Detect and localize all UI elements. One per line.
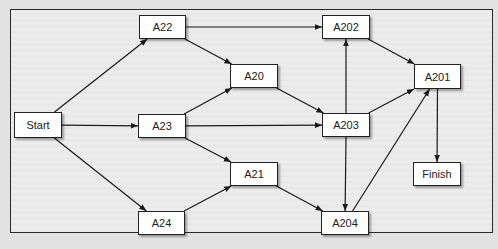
node-a203[interactable]: A203 [322, 113, 370, 137]
node-label: A22 [153, 21, 173, 33]
edge-a202-a201 [368, 39, 414, 64]
edge-a204-a201 [353, 89, 430, 211]
node-label: A202 [333, 21, 359, 33]
edge-start-a22 [55, 39, 148, 112]
node-a201[interactable]: A201 [414, 64, 461, 89]
node-a21[interactable]: A21 [230, 162, 278, 186]
node-label: A23 [152, 120, 172, 132]
node-label: A20 [244, 70, 264, 82]
node-label: A24 [152, 217, 172, 229]
edge-a23-a21 [185, 138, 231, 162]
edge-start-a23 [62, 125, 138, 126]
edge-a23-a20 [184, 88, 232, 114]
node-finish[interactable]: Finish [413, 162, 461, 186]
node-label: Start [26, 119, 49, 131]
edge-a22-a20 [185, 39, 232, 64]
node-label: Finish [422, 168, 451, 180]
node-a204[interactable]: A204 [321, 211, 369, 235]
edge-a203-a201 [369, 89, 414, 113]
node-label: A201 [425, 71, 451, 83]
edge-a24-a21 [184, 186, 231, 211]
node-a24[interactable]: A24 [138, 211, 185, 235]
node-label: A204 [332, 217, 358, 229]
node-a20[interactable]: A20 [230, 64, 278, 88]
edge-a20-a203 [277, 88, 324, 113]
node-a22[interactable]: A22 [139, 15, 186, 39]
edge-a23-a203 [186, 125, 322, 126]
edge-start-a24 [54, 138, 146, 211]
edge-a203-a204 [345, 137, 346, 211]
edge-a21-a204 [276, 186, 322, 211]
edges-layer [0, 0, 498, 249]
node-a202[interactable]: A202 [322, 15, 370, 39]
node-start[interactable]: Start [14, 112, 62, 138]
node-a23[interactable]: A23 [138, 114, 186, 138]
node-label: A203 [333, 119, 359, 131]
node-label: A21 [244, 168, 264, 180]
